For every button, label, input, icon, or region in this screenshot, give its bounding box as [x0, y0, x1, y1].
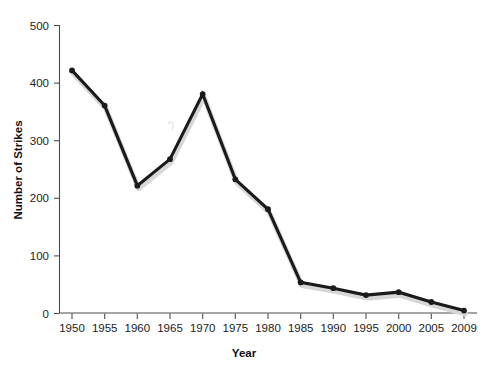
- x-axis-title: Year: [232, 347, 257, 359]
- y-tick-label: 500: [30, 20, 49, 32]
- y-tick-label: 400: [30, 77, 49, 89]
- x-tick-label: 1975: [223, 322, 249, 334]
- x-tick-label: 2009: [451, 322, 477, 334]
- data-point: [102, 103, 108, 109]
- chart-container: 500 400 300 200 100 0 1950 1955: [0, 0, 489, 374]
- data-point: [461, 308, 467, 314]
- y-axis-title: Number of Strikes: [12, 120, 24, 219]
- x-tick-label: 1990: [321, 322, 347, 334]
- data-point: [134, 183, 140, 189]
- data-point: [232, 176, 238, 182]
- data-point: [200, 91, 206, 97]
- data-point: [69, 68, 75, 74]
- data-point: [265, 206, 271, 212]
- y-tick-label: 300: [30, 135, 49, 147]
- data-point: [330, 285, 336, 291]
- y-tick-label: 100: [30, 250, 49, 262]
- x-tick-label: 2000: [386, 322, 412, 334]
- x-tick-label: 1950: [59, 322, 85, 334]
- x-tick-label: 1955: [92, 322, 118, 334]
- data-point: [363, 292, 369, 298]
- data-point: [428, 299, 434, 305]
- x-tick-label: 1980: [255, 322, 281, 334]
- x-tick-label: 1970: [190, 322, 216, 334]
- x-tick-label: 1995: [353, 322, 379, 334]
- y-tick-label: 200: [30, 192, 49, 204]
- data-point: [298, 280, 304, 286]
- x-tick-label: 1960: [125, 322, 151, 334]
- data-point: [396, 289, 402, 295]
- x-tick-label: 2005: [419, 322, 445, 334]
- y-tick-label: 0: [43, 308, 49, 320]
- x-tick-label: 1965: [157, 322, 183, 334]
- line-chart: 500 400 300 200 100 0 1950 1955: [0, 0, 489, 374]
- x-tick-label: 1985: [288, 322, 314, 334]
- data-point: [167, 156, 173, 162]
